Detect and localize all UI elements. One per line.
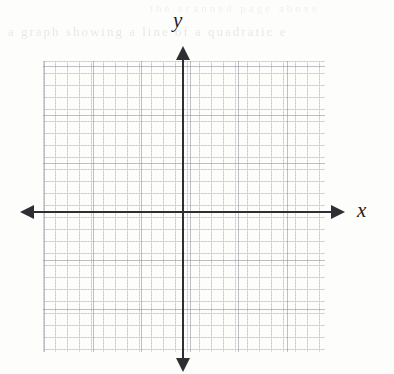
arrow-right-icon: [331, 205, 345, 219]
y-axis-label: y: [173, 10, 182, 31]
y-axis: [182, 54, 184, 366]
x-axis-label: x: [357, 200, 366, 221]
grid-area: [43, 61, 325, 352]
arrow-up-icon: [176, 46, 190, 60]
grid-major-lines: [43, 61, 325, 352]
scan-ghost-artifact: a graph showing a line of a quadratic e: [8, 24, 386, 40]
arrow-down-icon: [176, 358, 190, 372]
arrow-left-icon: [20, 205, 34, 219]
coordinate-plane-figure: the scanned page above a graph showing a…: [0, 0, 394, 374]
